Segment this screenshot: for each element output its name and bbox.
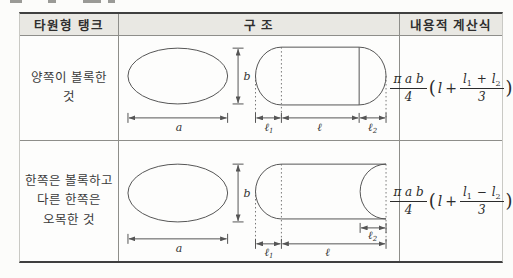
left-convex-cap	[256, 164, 282, 219]
row2-structure-cell: b a ℓ2 ℓ1 ℓ	[119, 141, 400, 261]
tank-table: 타원형 탱크 구 조 내용적 계산식 양쪽이 볼록한 것	[19, 12, 503, 263]
clipped-text-remnant	[8, 0, 128, 4]
row2-formula: π a b 4 ( l + l1 − l2 3 )	[389, 185, 512, 217]
label-a: a	[176, 121, 183, 134]
label-b: b	[244, 187, 251, 200]
header-cell-formula: 내용적 계산식	[400, 14, 502, 36]
row1-label-line: 양쪽이 볼록한 것	[24, 69, 114, 108]
header-structure-label: 구 조	[244, 15, 274, 34]
row1-formula: π a b 4 ( l + l1 + l2 3 )	[389, 72, 512, 104]
right-convex-cap	[359, 47, 386, 105]
label-l1: ℓ1	[264, 121, 273, 135]
page: 타원형 탱크 구 조 내용적 계산식 양쪽이 볼록한 것	[0, 0, 513, 278]
coefficient-fraction: π a b 4	[390, 185, 426, 217]
ellipse-cross-section	[128, 164, 228, 222]
row2-label-line: 오목한 것	[43, 211, 94, 230]
header-cell-structure: 구 조	[119, 14, 400, 36]
row2-structure-diagram: b a ℓ2 ℓ1 ℓ	[119, 142, 399, 261]
row1-label-cell: 양쪽이 볼록한 것	[20, 36, 119, 141]
length-fraction: l1 − l2 3	[460, 185, 504, 217]
left-convex-cap	[256, 47, 282, 105]
header-formula-label: 내용적 계산식	[410, 15, 492, 34]
label-l1: ℓ1	[264, 245, 273, 259]
label-l2: ℓ2	[368, 121, 378, 135]
row2-label-cell: 한쪽은 볼록하고 다른 한쪽은 오목한 것	[20, 141, 119, 261]
label-l2: ℓ2	[368, 228, 378, 242]
row2-label-line: 다른 한쪽은	[37, 191, 100, 210]
row1-structure-cell: b a ℓ1 ℓ ℓ2	[119, 36, 400, 141]
length-fraction: l1 + l2 3	[460, 72, 504, 104]
label-a: a	[176, 241, 183, 254]
row2-formula-cell: π a b 4 ( l + l1 − l2 3 )	[400, 141, 502, 261]
header-cell-tank-type: 타원형 탱크	[20, 14, 119, 36]
right-concave-end	[360, 164, 386, 219]
row2-label-line: 한쪽은 볼록하고	[25, 172, 112, 191]
label-b: b	[244, 70, 251, 83]
coefficient-fraction: π a b 4	[390, 72, 426, 104]
header-tank-type-label: 타원형 탱크	[34, 15, 103, 34]
row1-formula-cell: π a b 4 ( l + l1 + l2 3 )	[400, 36, 502, 141]
ellipse-cross-section	[128, 48, 228, 104]
row1-structure-diagram: b a ℓ1 ℓ ℓ2	[119, 36, 399, 140]
label-l: ℓ	[325, 245, 330, 258]
label-l: ℓ	[317, 121, 322, 134]
